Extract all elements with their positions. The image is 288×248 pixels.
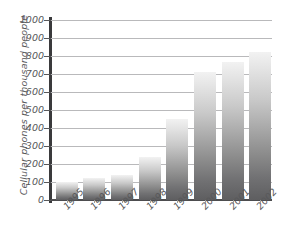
y-axis-tick [44, 110, 51, 111]
bar-chart: Cellular phones per thousand people 0100… [0, 0, 288, 248]
y-axis-tick-label: 400 [10, 123, 44, 133]
y-axis-tick-label: 1000 [10, 15, 44, 25]
gridline [51, 20, 272, 21]
y-axis-tick [44, 74, 51, 75]
bar-2002 [249, 52, 271, 201]
y-axis-tick-label: 100 [10, 177, 44, 187]
gridline [51, 56, 272, 57]
y-axis-tick-label: 700 [10, 69, 44, 79]
y-axis-tick [44, 128, 51, 129]
x-axis-tick [260, 200, 261, 203]
y-axis-tick [44, 146, 51, 147]
y-axis-tick [44, 164, 51, 165]
y-axis-tick-labels: 01002003004005006007008009001000 [2, 0, 44, 248]
x-axis-tick [122, 200, 123, 203]
bar-2000 [194, 72, 216, 200]
y-axis-tick [44, 200, 51, 201]
y-axis-tick [44, 20, 51, 21]
plot-area [51, 20, 272, 200]
x-axis-tick [150, 200, 151, 203]
y-axis-tick [44, 56, 51, 57]
y-axis-tick-label: 800 [10, 51, 44, 61]
gridline [51, 38, 272, 39]
bar-2001 [222, 62, 244, 200]
y-axis-tick [44, 92, 51, 93]
x-axis-tick [94, 200, 95, 203]
y-axis-tick-label: 600 [10, 87, 44, 97]
x-axis-tick [205, 200, 206, 203]
x-axis-tick-labels: 19951996199719981999200020012002 [51, 200, 288, 248]
y-axis-tick-label: 0 [10, 195, 44, 205]
y-axis-tick-label: 200 [10, 159, 44, 169]
y-axis-tick [44, 182, 51, 183]
x-axis-tick [67, 200, 68, 203]
x-axis-tick [233, 200, 234, 203]
y-axis-tick-label: 500 [10, 105, 44, 115]
x-axis-tick [177, 200, 178, 203]
y-axis-tick [44, 38, 51, 39]
y-axis-tick-label: 300 [10, 141, 44, 151]
y-axis-tick-label: 900 [10, 33, 44, 43]
